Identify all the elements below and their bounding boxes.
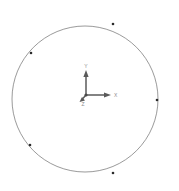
x-axis-arrowhead (104, 92, 111, 97)
vertex-marker[interactable] (156, 99, 159, 102)
vertex-marker[interactable] (30, 52, 33, 55)
scene-canvas[interactable]: Y X Z (0, 0, 179, 191)
y-axis-arrow[interactable] (83, 70, 88, 95)
x-axis-arrow[interactable] (86, 92, 111, 97)
coordinate-axis-triad[interactable]: Y X Z (80, 63, 119, 107)
vertex-marker-group (29, 23, 159, 175)
z-axis-label: Z (81, 101, 84, 107)
vertex-marker[interactable] (112, 23, 115, 26)
vertex-marker[interactable] (112, 172, 115, 175)
sketch-circle[interactable] (12, 26, 158, 172)
y-axis-label: Y (84, 63, 88, 69)
vertex-marker[interactable] (29, 144, 32, 147)
y-axis-arrowhead (83, 70, 88, 77)
x-axis-label: X (114, 92, 118, 98)
triad-origin-marker (84, 93, 87, 96)
3d-sketch-viewport[interactable]: Y X Z (0, 0, 179, 191)
